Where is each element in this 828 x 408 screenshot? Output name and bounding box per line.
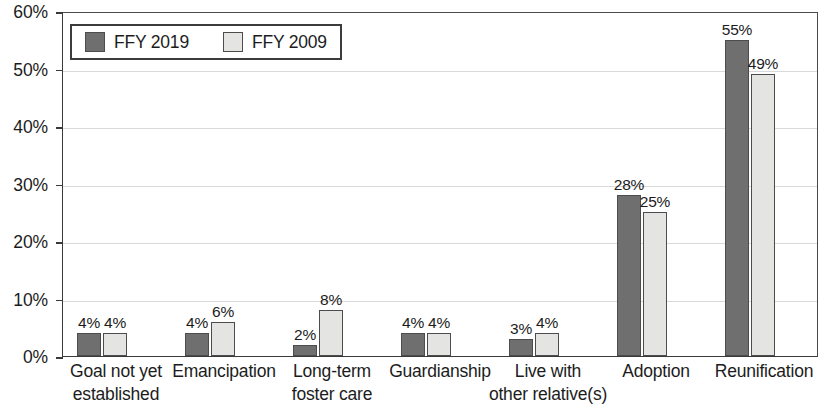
legend-entry[interactable]: FFY 2019 <box>85 32 189 53</box>
bar-group: 4%4% <box>77 13 127 356</box>
bar-value-label: 4% <box>104 314 126 332</box>
bar[interactable]: 55% <box>725 40 749 356</box>
bar-value-label: 4% <box>186 314 208 332</box>
x-label-line-2: other relative(s) <box>484 383 612 406</box>
x-label-line-1: Long-term <box>293 361 371 381</box>
x-label-line-1: Live with <box>515 361 581 381</box>
legend-swatch-icon <box>85 32 105 52</box>
bar[interactable]: 4% <box>401 333 425 356</box>
bar-value-label: 49% <box>748 55 778 73</box>
x-label-line-1: Reunification <box>715 361 814 381</box>
y-axis-tick-mark <box>56 127 63 129</box>
bar[interactable]: 4% <box>185 333 209 356</box>
bar-group: 28%25% <box>617 13 667 356</box>
y-axis-tick-label: 30% <box>0 174 48 195</box>
bar[interactable]: 28% <box>617 195 641 356</box>
plot-area: 4%4%4%6%2%8%4%4%3%4%28%25%55%49% <box>62 12 818 357</box>
x-axis-labels: Goal not yetestablishedEmancipationLong-… <box>62 360 818 408</box>
bar-group: 4%4% <box>401 13 451 356</box>
bar[interactable]: 25% <box>643 212 667 356</box>
x-label-line-1: Emancipation <box>172 361 276 381</box>
bar-value-label: 2% <box>294 326 316 344</box>
bar-value-label: 8% <box>320 291 342 309</box>
bar-value-label: 4% <box>78 314 100 332</box>
bar[interactable]: 2% <box>293 345 317 357</box>
x-axis-category-label: Reunification <box>700 360 828 383</box>
y-axis-tick-label: 40% <box>0 117 48 138</box>
bar-chart: 4%4%4%6%2%8%4%4%3%4%28%25%55%49% 0%10%20… <box>0 0 828 408</box>
x-label-line-2: established <box>52 383 180 406</box>
bar[interactable]: 4% <box>77 333 101 356</box>
bar[interactable]: 4% <box>103 333 127 356</box>
bar-value-label: 6% <box>212 303 234 321</box>
x-label-line-2: foster care <box>268 383 396 406</box>
y-axis-tick-mark <box>56 70 63 72</box>
legend-label: FFY 2019 <box>114 32 189 53</box>
x-label-line-1: Goal not yet <box>70 361 162 381</box>
bar-value-label: 28% <box>614 176 644 194</box>
bar-value-label: 3% <box>510 320 532 338</box>
y-axis-tick-mark <box>56 12 63 14</box>
y-axis-tick-label: 60% <box>0 2 48 23</box>
bar[interactable]: 4% <box>427 333 451 356</box>
bar-group: 2%8% <box>293 13 343 356</box>
y-axis-tick-label: 10% <box>0 289 48 310</box>
bar[interactable]: 3% <box>509 339 533 356</box>
bar[interactable]: 8% <box>319 310 343 356</box>
legend-entry[interactable]: FFY 2009 <box>223 32 327 53</box>
legend: FFY 2019FFY 2009 <box>70 24 342 60</box>
bar[interactable]: 6% <box>211 322 235 357</box>
y-axis-tick-mark <box>56 357 63 359</box>
y-axis-tick-mark <box>56 242 63 244</box>
bar-group: 55%49% <box>725 13 775 356</box>
bar[interactable]: 4% <box>535 333 559 356</box>
bar-group: 4%6% <box>185 13 235 356</box>
bar-value-label: 4% <box>536 314 558 332</box>
x-label-line-1: Adoption <box>622 361 690 381</box>
bar-value-label: 25% <box>640 193 670 211</box>
legend-label: FFY 2009 <box>252 32 327 53</box>
y-axis-tick-label: 0% <box>0 347 48 368</box>
bar-value-label: 55% <box>722 21 752 39</box>
legend-swatch-icon <box>223 32 243 52</box>
y-axis-tick-mark <box>56 185 63 187</box>
y-axis-tick-label: 20% <box>0 232 48 253</box>
bar-value-label: 4% <box>428 314 450 332</box>
x-label-line-1: Guardianship <box>389 361 491 381</box>
y-axis-tick-mark <box>56 300 63 302</box>
bar-group: 3%4% <box>509 13 559 356</box>
bar[interactable]: 49% <box>751 74 775 356</box>
bar-value-label: 4% <box>402 314 424 332</box>
y-axis-tick-label: 50% <box>0 59 48 80</box>
